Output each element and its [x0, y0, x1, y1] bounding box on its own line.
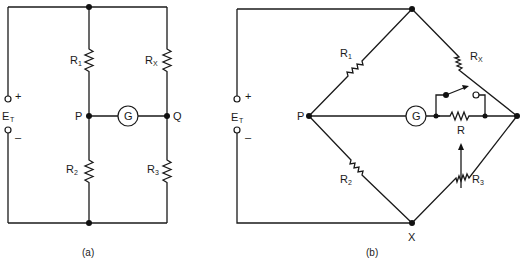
terminal-a-positive-icon: [5, 96, 11, 102]
label-b-node-x: X: [408, 231, 416, 243]
node-b-shunt-left: [434, 114, 439, 119]
label-a-r3: R: [147, 163, 155, 175]
diagram-a: G + – E T R 1 R X R 2 R 3 P Q (a): [2, 4, 182, 258]
label-b-r3-sub: 3: [480, 179, 484, 186]
galvanometer-a-label: G: [124, 110, 133, 122]
variable-arrowhead-icon: [458, 143, 464, 150]
node-b-shunt-right: [483, 114, 488, 119]
source-b-label: E: [231, 111, 238, 123]
switch-b-pivot: [443, 92, 449, 98]
source-a-minus: –: [15, 131, 22, 143]
label-a-rx: R: [145, 54, 153, 66]
label-b-r2-sub: 2: [348, 179, 352, 186]
terminal-b-negative-icon: [234, 127, 240, 133]
node-a-bottom: [86, 220, 92, 226]
source-a-subscript: T: [10, 116, 15, 123]
resistor-b-shunt: [436, 112, 517, 120]
label-a-r1-sub: 1: [78, 60, 82, 67]
caption-a: (a): [82, 247, 94, 258]
label-a-r1: R: [70, 54, 78, 66]
label-b-r1: R: [340, 47, 348, 59]
terminal-b-positive-icon: [234, 96, 240, 102]
resistor-b-r1: [309, 9, 412, 116]
source-a-label: E: [2, 110, 9, 122]
label-b-shunt: R: [457, 124, 465, 136]
resistor-b-rx: [412, 9, 517, 116]
label-a-r2: R: [66, 163, 74, 175]
source-b-minus: –: [245, 131, 252, 143]
node-b-p: [306, 113, 312, 119]
source-b-plus: +: [245, 90, 251, 102]
switch-b-lever-icon: [446, 87, 466, 95]
label-a-node-p: P: [75, 110, 82, 122]
wire-b-source-bottom: [237, 133, 412, 223]
node-b-right: [514, 113, 520, 119]
node-b-top: [409, 6, 415, 12]
label-a-r2-sub: 2: [74, 169, 78, 176]
source-b-subscript: T: [239, 117, 244, 124]
terminal-a-negative-icon: [5, 127, 11, 133]
diagram-b: G + – E T R 1 R X R 2 R 3 R P X: [231, 6, 520, 258]
label-b-r3: R: [472, 173, 480, 185]
switch-b-arrowhead-icon: [462, 85, 469, 90]
node-a-q: [164, 113, 170, 119]
label-a-r3-sub: 3: [155, 169, 159, 176]
label-b-rx-sub: X: [478, 56, 483, 63]
label-a-node-q: Q: [173, 110, 182, 122]
node-b-x: [409, 220, 415, 226]
resistor-b-r2: [309, 116, 412, 223]
galvanometer-b-label: G: [412, 110, 421, 122]
label-b-node-p: P: [297, 110, 304, 122]
label-b-r1-sub: 1: [348, 53, 352, 60]
source-a-plus: +: [15, 90, 21, 102]
label-b-rx: R: [470, 50, 478, 62]
switch-b-contact-icon: [473, 92, 479, 98]
label-b-r2: R: [340, 173, 348, 185]
label-a-rx-sub: X: [153, 60, 158, 67]
caption-b: (b): [366, 247, 378, 258]
node-a-p: [86, 113, 92, 119]
node-a-top: [86, 4, 92, 10]
